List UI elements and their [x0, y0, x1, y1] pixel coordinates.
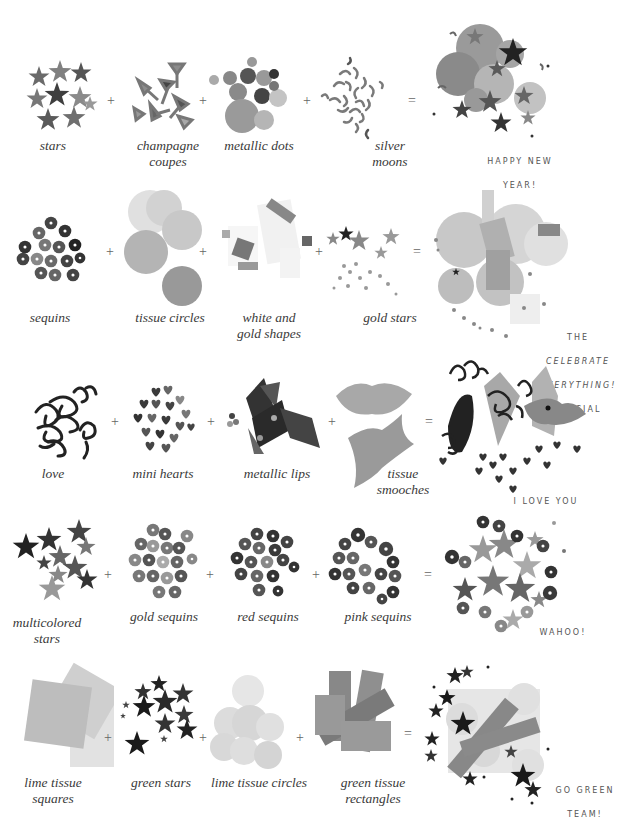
ingredient-label-pink-sequins: pink sequins — [323, 609, 433, 625]
metallic-dots-pile-image — [208, 56, 288, 134]
ingredient-label-gold-sequins: gold sequins — [109, 609, 219, 625]
plus-operator: + — [315, 244, 323, 260]
result-line: GO GREEN — [540, 785, 629, 797]
lime-tissue-squares-pile-image — [22, 659, 114, 771]
champagne-coupes-pile-image — [130, 60, 196, 132]
equals-operator: = — [408, 93, 416, 109]
ingredient-label-gold-stars: gold stars — [335, 310, 445, 326]
green-stars-pile-image — [120, 675, 200, 757]
plus-operator: + — [104, 730, 112, 746]
ingredient-label-lime-tissue-squares: lime tissue squares — [0, 775, 108, 807]
plus-operator: + — [111, 414, 119, 430]
ingredient-label-love: love — [0, 466, 108, 482]
plus-operator: + — [106, 244, 114, 260]
plus-operator: + — [207, 414, 215, 430]
plus-operator: + — [303, 93, 311, 109]
result-line: THE — [533, 332, 623, 344]
silver-moons-pile-image — [320, 52, 394, 144]
plus-operator: + — [199, 730, 207, 746]
green-tissue-rectangles-pile-image — [315, 667, 397, 759]
tissue-circles-pile-image — [124, 190, 204, 306]
recipe-row-3: love + mini — [0, 350, 629, 505]
ingredient-label-green-tissue-rectangles: green tissue rectangles — [318, 775, 428, 807]
plus-operator: + — [199, 244, 207, 260]
mini-hearts-pile-image — [130, 382, 198, 458]
i-love-you-mix-image — [438, 356, 590, 494]
recipe-row-2: sequins + tissue circles + white and gol… — [0, 180, 629, 350]
sequins-pile-image — [14, 216, 86, 288]
red-sequins-pile-image — [230, 527, 302, 603]
ingredient-label-silver-moons: silver moons — [335, 138, 445, 170]
result-label-go-green-team: GO GREEN TEAM! — [540, 773, 629, 820]
stars-pile-image — [26, 58, 98, 140]
ingredient-label-red-sequins: red sequins — [213, 609, 323, 625]
equals-operator: = — [413, 244, 421, 260]
love-script-pile-image — [30, 382, 104, 462]
result-line: HAPPY NEW — [460, 156, 580, 168]
gold-sequins-pile-image — [128, 523, 200, 603]
ingredient-label-multicolored-stars: multicolored stars — [0, 615, 102, 647]
gold-stars-pile-image — [326, 226, 406, 306]
ingredient-label-stars: stars — [0, 138, 108, 154]
result-line: TEAM! — [540, 809, 629, 820]
recipe-row-1: stars + champagne coupes + — [0, 0, 629, 180]
result-label-wahoo: WAHOO! — [518, 615, 608, 651]
ingredient-label-metallic-lips: metallic lips — [222, 466, 332, 482]
lime-tissue-circles-pile-image — [210, 675, 286, 771]
ingredient-label-tissue-circles: tissue circles — [115, 310, 225, 326]
plus-operator: + — [104, 567, 112, 583]
plus-operator: + — [199, 93, 207, 109]
plus-operator: + — [206, 567, 214, 583]
recipe-row-5: lime tissue squares + green stars + — [0, 655, 629, 820]
equals-operator: = — [404, 726, 412, 742]
multicolored-stars-pile-image — [12, 519, 98, 603]
ingredient-label-lime-tissue-circles: lime tissue circles — [199, 775, 319, 791]
plus-operator: + — [107, 93, 115, 109]
plus-operator: + — [296, 730, 304, 746]
equals-operator: = — [424, 567, 432, 583]
metallic-lips-pile-image — [224, 378, 320, 456]
plus-operator: + — [312, 567, 320, 583]
celebrate-everything-mix-image — [434, 190, 574, 340]
ingredient-label-metallic-dots: metallic dots — [204, 138, 314, 154]
white-and-gold-shapes-pile-image — [222, 196, 314, 296]
recipe-row-4: multicolored stars + gold sequins + — [0, 505, 629, 655]
pink-sequins-pile-image — [328, 527, 406, 607]
ingredient-label-sequins: sequins — [0, 310, 105, 326]
result-line: WAHOO! — [518, 627, 608, 639]
ingredient-label-mini-hearts: mini hearts — [108, 466, 218, 482]
happy-new-year-mix-image — [430, 14, 560, 142]
ingredient-label-white-and-gold-shapes: white and gold shapes — [214, 310, 324, 342]
equals-operator: = — [425, 414, 433, 430]
